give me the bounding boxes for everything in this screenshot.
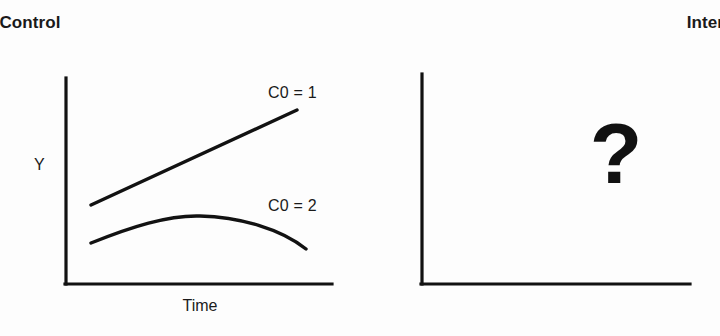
- panel-control: Control Y Time C0 = 1 C0 = 2: [0, 0, 360, 336]
- y-axis-label-control: Y: [34, 155, 45, 174]
- plot-area-control: [0, 0, 360, 336]
- x-axis-label-control: Time: [0, 296, 400, 315]
- series-label-c0-2: C0 = 2: [268, 196, 317, 215]
- trend-line-c0-1: [91, 110, 297, 205]
- question-mark-icon: ?: [536, 110, 696, 196]
- series-label-c0-1: C0 = 1: [268, 83, 317, 102]
- panel-intervention: Intervention ? Time: [360, 0, 720, 336]
- trend-curve-c0-2: [91, 216, 306, 249]
- figure-canvas: Control Y Time C0 = 1 C0 = 2 Interventio…: [0, 0, 720, 336]
